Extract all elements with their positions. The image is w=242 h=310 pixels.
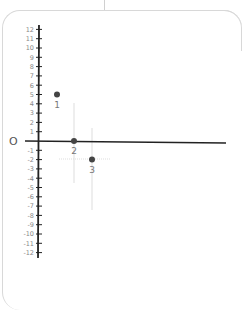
y-tick-label: 9	[30, 54, 34, 62]
y-tick-label: -9	[28, 221, 34, 229]
data-point	[54, 92, 60, 98]
x-axis	[25, 141, 226, 143]
y-tick-label: -12	[23, 249, 34, 257]
y-tick-label: -7	[28, 202, 34, 210]
data-point	[89, 157, 95, 163]
y-tick-label: -2	[28, 156, 34, 164]
y-tick-label: -6	[28, 193, 34, 201]
point-label: 2	[71, 146, 77, 156]
y-tick-label: -11	[23, 240, 34, 248]
y-axis	[38, 25, 39, 258]
y-tick-label: 8	[30, 63, 34, 71]
y-tick-label: -8	[28, 212, 34, 220]
y-tick-label: 10	[26, 44, 34, 52]
y-tick-label: 7	[30, 72, 34, 80]
point-label: 3	[89, 165, 95, 175]
y-tick-label: 4	[30, 100, 34, 108]
point-label: 1	[54, 100, 60, 110]
y-tick-label: -3	[28, 165, 34, 173]
y-tick-label: 11	[26, 35, 34, 43]
y-tick-label: 6	[30, 82, 34, 90]
y-tick-label: 2	[30, 119, 34, 127]
y-tick-label: -4	[28, 175, 34, 183]
y-tick-label: 3	[30, 109, 34, 117]
y-tick-label: 1	[30, 128, 34, 136]
y-tick-label: -5	[28, 184, 34, 192]
y-tick-label: 12	[26, 26, 34, 34]
y-tick-label: -10	[23, 230, 34, 238]
data-point	[71, 138, 77, 144]
y-tick-label: 5	[30, 91, 34, 99]
origin-label: O	[9, 135, 18, 148]
y-tick-label: -1	[28, 147, 34, 155]
